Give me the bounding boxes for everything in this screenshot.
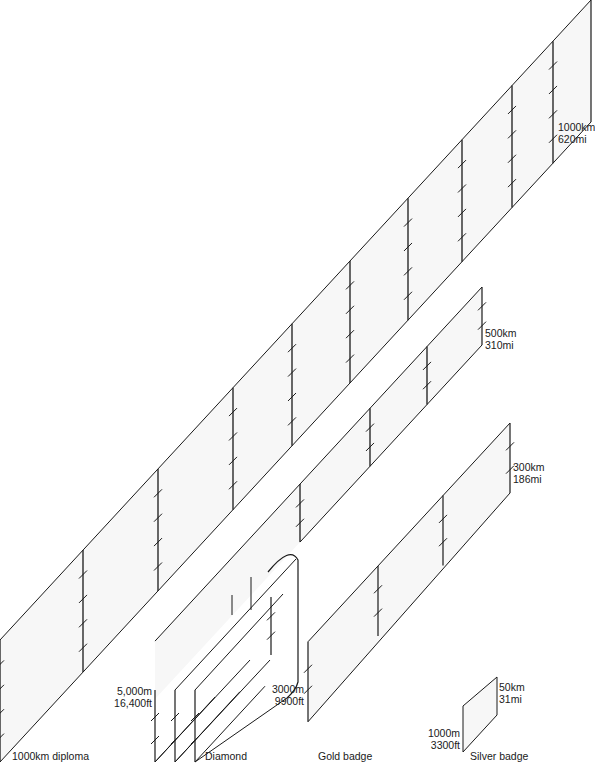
diploma-km: 1000km xyxy=(558,121,595,133)
silver-distance-label: 50km 31mi xyxy=(499,681,525,705)
diamond-distance-label: 500km 310mi xyxy=(485,327,517,351)
gold-mi: 186mi xyxy=(513,473,545,485)
diamond-km: 500km xyxy=(485,327,517,339)
gold-height-m: 3000m xyxy=(262,683,304,695)
diploma-1000km-ribbon xyxy=(0,0,591,762)
diamond-mi: 310mi xyxy=(485,339,517,351)
diamond-height-ft: 16,400ft xyxy=(108,697,152,709)
diploma-distance-label: 1000km 620mi xyxy=(558,121,595,145)
gold-name: Gold badge xyxy=(318,750,372,762)
gold-distance-label: 300km 186mi xyxy=(513,461,545,485)
silver-name-label: Silver badge xyxy=(470,750,528,762)
gold-km: 300km xyxy=(513,461,545,473)
silver-km: 50km xyxy=(499,681,525,693)
diamond-name: Diamond xyxy=(205,750,247,762)
gold-height-label: 3000m 9900ft xyxy=(262,683,304,707)
silver-height-m: 1000m xyxy=(418,727,460,739)
diamond-name-label: Diamond xyxy=(205,750,247,762)
diploma-name: 1000km diploma xyxy=(12,750,89,762)
diamond-height-label: 5,000m 16,400ft xyxy=(108,685,152,709)
gold-name-label: Gold badge xyxy=(318,750,372,762)
silver-height-ft: 3300ft xyxy=(418,739,460,751)
diamond-height-m: 5,000m xyxy=(108,685,152,697)
diploma-name-label: 1000km diploma xyxy=(12,750,89,762)
gold-height-ft: 9900ft xyxy=(262,695,304,707)
silver-name: Silver badge xyxy=(470,750,528,762)
silver-50km-ribbon xyxy=(463,677,497,752)
silver-height-label: 1000m 3300ft xyxy=(418,727,460,751)
diploma-mi: 620mi xyxy=(558,133,595,145)
silver-mi: 31mi xyxy=(499,693,525,705)
